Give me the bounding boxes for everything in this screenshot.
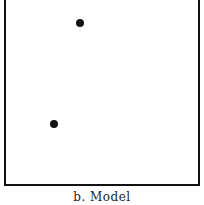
point-marker-1 xyxy=(76,19,84,27)
diagram-frame xyxy=(4,0,200,186)
point-marker-2 xyxy=(50,120,58,128)
figure-caption: b. Model xyxy=(0,190,204,204)
